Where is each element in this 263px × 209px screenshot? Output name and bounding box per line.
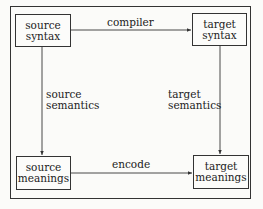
node-label: target (203, 19, 236, 30)
node-label: meanings (18, 173, 69, 184)
node-label: source (25, 20, 61, 31)
edge-label-source-semantics: source semantics (46, 89, 99, 111)
node-label: meanings (195, 172, 246, 183)
edge-label-target-semantics: target semantics (168, 89, 221, 111)
node-target-syntax: target syntax (192, 13, 247, 46)
edge-label-compiler: compiler (107, 17, 154, 28)
node-source-syntax: source syntax (15, 14, 71, 47)
node-label: syntax (202, 30, 236, 41)
node-label: syntax (26, 31, 60, 42)
node-source-meanings: source meanings (16, 156, 71, 190)
edge-label-line: semantics (168, 100, 221, 111)
edge-label-line: semantics (46, 100, 99, 111)
node-target-meanings: target meanings (193, 155, 249, 189)
edge-label-encode: encode (112, 159, 150, 170)
